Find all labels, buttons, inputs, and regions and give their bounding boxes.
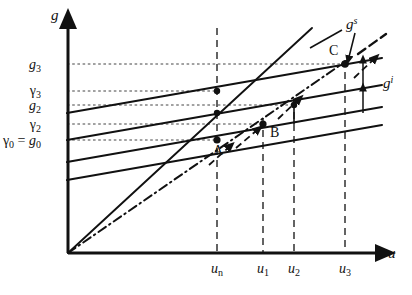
curve-label-gs: gs xyxy=(346,15,358,32)
point-label-B: B xyxy=(270,125,279,140)
curve-labels: gs gi xyxy=(346,15,394,91)
x-tick-labels: un u1 u2 u3 xyxy=(211,261,351,278)
x-tick-u3: u3 xyxy=(339,261,351,278)
y-tick-gamma0: γ0 = g0 xyxy=(2,133,41,150)
y-axis-label: g xyxy=(51,7,59,23)
gi-line-0 xyxy=(67,125,382,180)
x-tick-un: un xyxy=(211,261,223,278)
phillips-curve-diagram: g u g3 γ3 g2 γ2 γ0 = g0 un u1 u2 u3 xyxy=(0,0,412,295)
gi-line-1 xyxy=(67,107,382,162)
point-C-marker xyxy=(341,60,349,68)
gs-leader-right xyxy=(349,33,355,57)
curve-label-gi: gi xyxy=(383,74,394,91)
point-label-C: C xyxy=(329,43,338,58)
x-tick-u2: u2 xyxy=(288,261,300,278)
adjust-arrow-ab xyxy=(236,131,256,148)
vertical-dashed-lines xyxy=(217,28,345,253)
gi-line-2 xyxy=(67,85,382,140)
point-u2-marker xyxy=(291,102,297,108)
x-axis-label: u xyxy=(388,245,396,261)
x-tick-u1: u1 xyxy=(257,261,269,278)
y-tick-g3: g3 xyxy=(29,57,41,74)
gi-line-family xyxy=(67,58,382,180)
horizontal-gridlines xyxy=(67,64,345,140)
y-tick-g2: g2 xyxy=(29,98,41,115)
point-label-A: A xyxy=(213,143,224,158)
y-tick-labels: g3 γ3 g2 γ2 γ0 = g0 xyxy=(2,57,41,150)
point-B-marker xyxy=(259,120,266,127)
y-tick-gamma2: γ2 xyxy=(29,117,41,134)
point-un-mid-marker xyxy=(214,110,220,116)
point-un-upper-marker xyxy=(214,88,220,94)
gs-dash-segment-upper xyxy=(358,34,386,54)
